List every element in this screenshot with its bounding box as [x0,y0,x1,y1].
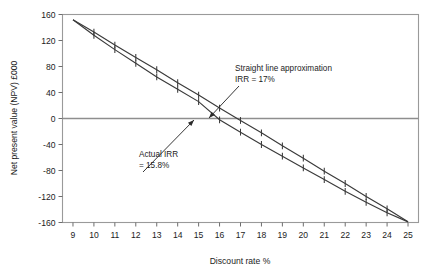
x-tick-label: 19 [278,230,288,240]
straight-line-annotation: Straight line approximationIRR = 17% [209,64,332,118]
actual-irr-annotation-line2: = 15.8% [139,161,169,170]
x-tick-label: 15 [194,230,204,240]
straight-line-annotation-line2: IRR = 17% [235,75,275,84]
y-tick-label: -80 [43,166,56,176]
x-tick-label: 13 [152,230,162,240]
y-tick-label: -160 [38,218,55,228]
series-group [73,20,408,222]
chart-canvas: 16012080400-40-80-120-160 91011121314151… [0,0,434,275]
x-tick-label: 16 [215,230,225,240]
x-tick-label: 11 [110,230,119,240]
actual-irr-annotation: Actual IRR= 15.8% [139,120,194,172]
x-axis-title: Discount rate % [210,256,271,266]
y-tick-label: -120 [38,192,55,202]
straight-line-annotation-line1: Straight line approximation [235,64,332,73]
x-tick-label: 21 [319,230,329,240]
npv-irr-chart: 16012080400-40-80-120-160 91011121314151… [0,0,434,275]
series-straight [73,20,408,222]
y-tick-label: 120 [41,36,56,46]
x-tick-label: 22 [340,230,350,240]
y-axis-title: Net present value (NPV) £000 [9,60,19,175]
y-tick-label: 40 [46,88,56,98]
x-tick-label: 25 [403,230,413,240]
x-tick-label: 24 [382,230,392,240]
x-axis: 910111213141516171819202122232425 [71,223,413,240]
y-axis: 16012080400-40-80-120-160 [38,10,62,228]
x-tick-label: 10 [89,230,99,240]
x-tick-label: 9 [71,230,76,240]
x-tick-label: 20 [299,230,309,240]
x-tick-label: 12 [131,230,141,240]
y-tick-label: 0 [51,114,56,124]
y-tick-label: 160 [41,10,56,20]
straight-line-annotation-leader [209,86,239,118]
actual-irr-annotation-line1: Actual IRR [139,150,178,159]
x-tick-label: 17 [236,230,246,240]
y-tick-label: -40 [43,140,56,150]
x-tick-label: 18 [257,230,267,240]
x-tick-label: 14 [173,230,183,240]
y-tick-label: 80 [46,62,56,72]
x-tick-label: 23 [361,230,371,240]
